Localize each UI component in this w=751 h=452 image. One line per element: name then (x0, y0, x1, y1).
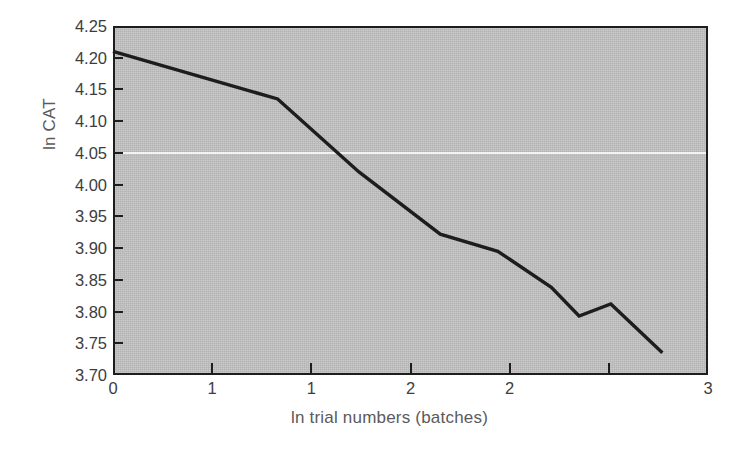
x-axis-title-container: ln trial numbers (batches) (0, 408, 751, 428)
y-tick-mark (113, 247, 123, 249)
y-tick-label: 4.00 (53, 175, 107, 194)
y-tick-mark (113, 342, 123, 344)
y-tick-mark (113, 88, 123, 90)
y-tick-mark (113, 57, 123, 59)
y-tick-label: 3.85 (53, 270, 107, 289)
y-tick-mark (113, 215, 123, 217)
y-tick-label: 4.20 (53, 48, 107, 67)
x-tick-label: 3 (688, 379, 728, 398)
plot-area (113, 26, 708, 375)
x-tick-mark (608, 363, 610, 375)
y-tick-mark (113, 120, 123, 122)
x-tick-label: 1 (291, 379, 331, 398)
x-tick-label: 2 (490, 379, 530, 398)
y-tick-label: 3.80 (53, 302, 107, 321)
x-tick-label: 2 (391, 379, 431, 398)
y-tick-label: 4.15 (53, 80, 107, 99)
y-tick-label: 4.25 (53, 17, 107, 36)
x-tick-label: 0 (93, 379, 133, 398)
y-tick-label: 4.05 (53, 143, 107, 162)
plot-texture (115, 28, 706, 373)
chart-figure: ln CAT 4.254.204.154.104.054.003.953.903… (0, 0, 751, 452)
y-tick-mark (113, 184, 123, 186)
y-tick-label: 4.10 (53, 112, 107, 131)
y-tick-mark (113, 279, 123, 281)
x-tick-mark (211, 363, 213, 375)
x-tick-label: 1 (192, 379, 232, 398)
y-tick-mark (113, 311, 123, 313)
y-tick-label: 3.90 (53, 239, 107, 258)
scan-artifact-line (115, 152, 706, 154)
x-tick-mark (310, 363, 312, 375)
y-tick-label: 3.95 (53, 207, 107, 226)
x-tick-mark (410, 363, 412, 375)
x-axis-title: ln trial numbers (batches) (263, 408, 488, 427)
y-tick-label: 3.75 (53, 334, 107, 353)
x-tick-mark (509, 363, 511, 375)
y-tick-mark (113, 152, 123, 154)
